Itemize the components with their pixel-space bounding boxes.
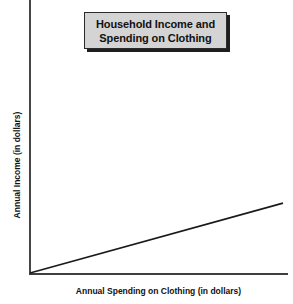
y-axis-line bbox=[29, 0, 31, 275]
chart-title: Household Income and Spending on Clothin… bbox=[96, 17, 215, 45]
chart-figure: Household Income and Spending on Clothin… bbox=[0, 0, 293, 304]
chart-title-box: Household Income and Spending on Clothin… bbox=[84, 12, 227, 49]
x-axis-line bbox=[29, 273, 288, 275]
y-axis-label: Annual Income (in dollars) bbox=[12, 85, 22, 245]
trend-line bbox=[30, 203, 283, 273]
x-axis-label: Annual Spending on Clothing (in dollars) bbox=[29, 286, 288, 296]
